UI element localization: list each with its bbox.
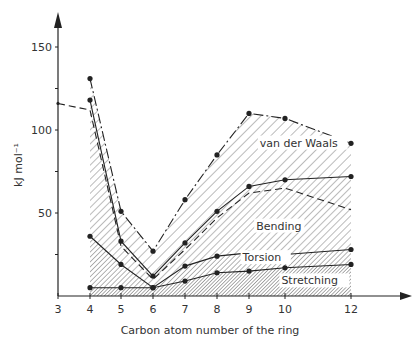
area-label: van der Waals: [260, 137, 338, 150]
data-point-marker: [87, 76, 92, 81]
area-label: Bending: [256, 220, 301, 233]
x-tick-label: 7: [182, 303, 189, 316]
data-point-marker: [214, 152, 219, 157]
data-point-marker: [282, 177, 287, 182]
area-label: Stretching: [281, 274, 338, 287]
y-tick-label: 150: [31, 41, 52, 54]
x-tick-label: 9: [246, 303, 253, 316]
data-point-marker: [182, 278, 187, 283]
data-point-marker: [246, 269, 251, 274]
data-point-marker: [214, 254, 219, 259]
data-point-marker: [182, 197, 187, 202]
data-point-marker: [282, 116, 287, 121]
y-tick-label: 50: [38, 207, 52, 220]
data-point-marker: [214, 209, 219, 214]
data-point-marker: [282, 265, 287, 270]
area-label: Torsion: [242, 251, 282, 264]
strain-energy-chart: 3456789101250100150Carbon atom number of…: [0, 0, 420, 340]
x-tick-label: 8: [214, 303, 221, 316]
data-point-marker: [118, 285, 123, 290]
data-point-marker: [118, 262, 123, 267]
x-tick-label: 12: [344, 303, 358, 316]
axis-start-marker: [56, 102, 59, 105]
y-axis-label: kJ mol⁻¹: [12, 143, 25, 187]
data-point-marker: [348, 141, 353, 146]
x-axis-label: Carbon atom number of the ring: [121, 324, 300, 337]
x-tick-label: 4: [87, 303, 94, 316]
hatched-areas: [90, 79, 351, 296]
data-point-marker: [348, 262, 353, 267]
data-point-marker: [348, 247, 353, 252]
x-tick-label: 10: [278, 303, 292, 316]
data-point-marker: [150, 249, 155, 254]
data-point-marker: [87, 285, 92, 290]
x-tick-label: 3: [55, 303, 62, 316]
data-point-marker: [150, 285, 155, 290]
data-point-marker: [214, 270, 219, 275]
data-point-marker: [118, 209, 123, 214]
data-point-marker: [246, 184, 251, 189]
data-point-marker: [246, 111, 251, 116]
x-axis-arrow-icon: [400, 292, 412, 300]
y-tick-label: 100: [31, 124, 52, 137]
x-tick-label: 5: [118, 303, 125, 316]
data-point-marker: [182, 264, 187, 269]
data-point-marker: [87, 234, 92, 239]
data-point-marker: [182, 240, 187, 245]
x-tick-label: 6: [150, 303, 157, 316]
y-axis-arrow-icon: [54, 12, 62, 28]
data-point-marker: [87, 98, 92, 103]
data-point-marker: [348, 174, 353, 179]
